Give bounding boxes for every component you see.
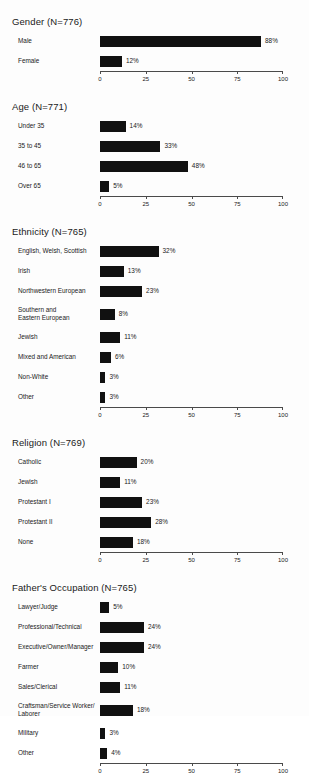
axis-tick-label: 25 xyxy=(142,556,149,564)
bar-category-label: Irish xyxy=(0,267,100,275)
axis-tick xyxy=(237,552,238,555)
bar-track: 3% xyxy=(100,723,283,743)
bar-area: 18% xyxy=(100,697,309,723)
axis-tick-label: 25 xyxy=(142,411,149,419)
panel-title: Ethnicity (N=765) xyxy=(0,226,309,238)
axis-tick xyxy=(146,552,147,555)
bar xyxy=(100,141,160,152)
panel-title: Age (N=771) xyxy=(0,101,309,113)
axis-tick xyxy=(100,407,101,410)
bar-area: 11% xyxy=(100,472,309,492)
axis-tick-label: 50 xyxy=(188,767,195,775)
x-axis: 0255075100 xyxy=(0,552,309,566)
axis-tick-label: 75 xyxy=(234,75,241,83)
axis-tick xyxy=(192,196,193,199)
bar-row: Non-White3% xyxy=(0,367,309,387)
bar-category-label: Southern and Eastern European xyxy=(0,306,100,322)
axis-tick xyxy=(282,196,283,199)
axis-tick-label: 50 xyxy=(188,556,195,564)
x-axis: 0255075100 xyxy=(0,763,309,777)
bar-area: 20% xyxy=(100,452,309,472)
bar-track: 88% xyxy=(100,31,283,51)
axis-tick-label: 100 xyxy=(278,767,288,775)
bar-value-label: 28% xyxy=(155,518,168,526)
chart-panel: Gender (N=776)Male88%Female12%0255075100 xyxy=(0,16,309,85)
axis-body: 0255075100 xyxy=(100,763,283,777)
bar-track: 8% xyxy=(100,301,283,327)
panel-title: Father's Occupation (N=765) xyxy=(0,582,309,594)
bar-area: 6% xyxy=(100,347,309,367)
bar-row: Military3% xyxy=(0,723,309,743)
bar-value-label: 48% xyxy=(192,162,205,170)
bar-track: 23% xyxy=(100,281,283,301)
bar-area: 24% xyxy=(100,617,309,637)
bar xyxy=(100,286,142,297)
axis-spacer xyxy=(0,71,100,85)
bar-row: Other4% xyxy=(0,743,309,763)
bar-category-label: Craftsman/Service Worker/ Laborer xyxy=(0,702,100,718)
axis-tick xyxy=(100,196,101,199)
bar-row: Craftsman/Service Worker/ Laborer18% xyxy=(0,697,309,723)
bar-category-label: Lawyer/Judge xyxy=(0,603,100,611)
axis-tick xyxy=(192,71,193,74)
bar-area: 11% xyxy=(100,677,309,697)
bar-track: 4% xyxy=(100,743,283,763)
axis-body: 0255075100 xyxy=(100,407,283,421)
bar-track: 5% xyxy=(100,176,283,196)
bar-row: Female12% xyxy=(0,51,309,71)
bar-category-label: 46 to 65 xyxy=(0,162,100,170)
axis-tick xyxy=(146,763,147,766)
bar xyxy=(100,622,144,633)
axis-tick xyxy=(282,71,283,74)
bar-row: Irish13% xyxy=(0,261,309,281)
axis-tick-label: 25 xyxy=(142,200,149,208)
chart-panel: Father's Occupation (N=765)Lawyer/Judge5… xyxy=(0,582,309,777)
bar-category-label: Protestant II xyxy=(0,518,100,526)
bar-value-label: 8% xyxy=(119,310,128,318)
panel-gap xyxy=(0,85,309,101)
bar-track: 3% xyxy=(100,387,283,407)
axis-tick xyxy=(146,196,147,199)
bar xyxy=(100,392,105,403)
bar-area: 12% xyxy=(100,51,309,71)
axis-tick-label: 75 xyxy=(234,556,241,564)
chart-panel: Religion (N=769)Catholic20%Jewish11%Prot… xyxy=(0,437,309,566)
bar xyxy=(100,682,120,693)
bar-row: Mixed and American6% xyxy=(0,347,309,367)
bar-category-label: Male xyxy=(0,37,100,45)
bar-area: 28% xyxy=(100,512,309,532)
bar-area: 24% xyxy=(100,637,309,657)
bar-rows: Male88%Female12% xyxy=(0,31,309,71)
axis-tick-label: 75 xyxy=(234,200,241,208)
bar-row: Sales/Clerical11% xyxy=(0,677,309,697)
axis-tick xyxy=(192,763,193,766)
bar-track: 24% xyxy=(100,617,283,637)
bar-row: Lawyer/Judge5% xyxy=(0,597,309,617)
bar xyxy=(100,477,120,488)
bar-value-label: 3% xyxy=(109,729,118,737)
bar-row: Catholic20% xyxy=(0,452,309,472)
axis-tick-label: 0 xyxy=(98,75,101,83)
bar-track: 23% xyxy=(100,492,283,512)
axis-tick xyxy=(282,552,283,555)
axis-tick xyxy=(237,196,238,199)
bar xyxy=(100,36,261,47)
bar-area: 5% xyxy=(100,176,309,196)
bar-category-label: Farmer xyxy=(0,663,100,671)
bar-row: Under 3514% xyxy=(0,116,309,136)
bar-category-label: Over 65 xyxy=(0,182,100,190)
axis-tick xyxy=(237,71,238,74)
bar-row: Farmer10% xyxy=(0,657,309,677)
panel-title: Gender (N=776) xyxy=(0,16,309,28)
panel-gap xyxy=(0,210,309,226)
bar-row: English, Welsh, Scottish32% xyxy=(0,241,309,261)
bar-row: Professional/Technical24% xyxy=(0,617,309,637)
bar-area: 11% xyxy=(100,327,309,347)
panel-gap xyxy=(0,566,309,582)
bar-area: 14% xyxy=(100,116,309,136)
bar-category-label: Mixed and American xyxy=(0,353,100,361)
x-axis: 0255075100 xyxy=(0,71,309,85)
bar-row: Protestant II28% xyxy=(0,512,309,532)
bar xyxy=(100,728,105,739)
bar-value-label: 33% xyxy=(164,142,177,150)
